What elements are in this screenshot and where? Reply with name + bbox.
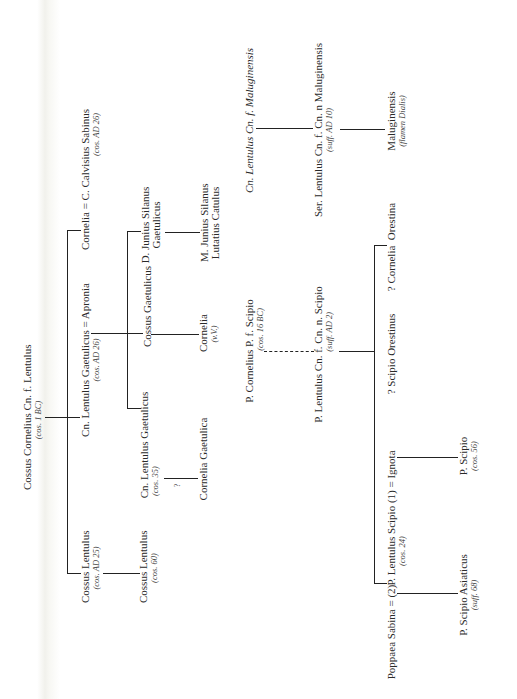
node-ser-maluginensis: Ser. Lentulus Cn. f. Cn. n Maluginensis … [313,37,335,223]
line-root-stem [45,417,80,418]
node-scipio-orestinus: ? Scipio Orestinus [386,306,397,402]
node-office: (cos. 1 BC) [33,350,44,490]
node-p-cornelius-scipio: P. Cornelius P. f. Scipio (cos. 16 BC) [244,296,266,406]
node-office: (cos. 60) [149,533,160,603]
node-poppaea: Poppaea Sabina = (2) [386,584,397,680]
line-scipio-2-stem [339,351,374,352]
node-office: (cos. AD 25) [91,533,102,603]
node-office: (suff. AD 2) [324,282,335,427]
node-m-junius: M. Junius Silanus Lutatius Catulus [199,184,221,262]
line-root-siblings [67,230,68,573]
node-office: (cos. 24) [397,448,408,588]
node-name: P. Lentulus Cn. f. Cn. n. Scipio [313,282,324,427]
line-poppaea-to-asiaticus [397,593,458,594]
node-name: Cossus Lentulus [80,533,91,603]
node-maluginensis-flamen: Maluginensis (flamen Dialis) [386,90,408,152]
node-root: Cossus Cornelius Cn. f. Lentulus (cos. 1… [22,350,44,490]
node-cornelia-orestina: ? Cornelia Orestina [386,202,397,292]
line-cossus-25-to-60 [103,573,140,574]
node-cornelia-calvisius: Cornelia = C. Calvisius Sabinus (cos. AD… [80,107,102,252]
node-name: Cn. Lentulus Gaetulicus [139,390,150,500]
node-office: (cos. AD 26) [91,280,102,440]
node-name: Poppaea Sabina = (2) [386,584,397,680]
node-name: Maluginensis [386,90,397,152]
node-name: Cornelia = C. Calvisius Sabinus [80,107,91,252]
node-office: (cos. 56) [469,434,480,478]
node-office: (cos. AD 26) [91,107,102,252]
node-p-lentulus-scipio-24: P. Lentulus Scipio (1) = Ignota (cos. 24… [386,448,408,588]
line-cossus-gaetulicus-to-cornelia [151,334,199,335]
node-cossus-gaetulicus: Cossus Gaetulicus [142,287,153,347]
node-name: Cornelia Gaetulica [198,416,209,502]
node-name: Cn. Lentulus Cn. f. Maluginensis [244,53,255,193]
line-ser-to-flamen [340,129,385,130]
node-name: ? Cornelia Orestina [386,202,397,292]
node-gaetulicus-apronia: Cn. Lentulus Gaetulicus = Apronia (cos. … [80,280,102,440]
uncertain-mark: ? [173,484,182,488]
line-scipio-dashed [264,351,314,352]
node-gaetulicus-35: Cn. Lentulus Gaetulicus (cos. 35) [139,390,161,500]
node-office: (suff. 68) [469,548,480,642]
node-name: P. Lentulus Scipio (1) = Ignota [386,448,397,588]
line-gaetulicus-children [127,231,128,409]
node-name: Cossus Cornelius Cn. f. Lentulus [22,350,33,490]
node-office: (cos. 16 BC) [255,296,266,406]
node-name: Cossus Gaetulicus [142,287,153,347]
node-name: P. Cornelius P. f. Scipio [244,296,255,406]
node-name: P. Scipio Asiaticus [458,548,469,642]
line-gaetulicus-35-to-cornelia [164,478,198,479]
node-p-scipio-asiaticus: P. Scipio Asiaticus (suff. 68) [458,548,480,642]
line-scipio-2-children [374,245,375,584]
node-name: Ser. Lentulus Cn. f. Cn. n Maluginensis [313,37,324,223]
node-name: P. Scipio [458,434,469,478]
node-name: ? Scipio Orestinus [386,306,397,402]
node-cossus-lentulus-60: Cossus Lentulus (cos. 60) [138,533,160,603]
node-name-line2: Gaetulicus [151,185,162,265]
node-d-junius: D. Junius Silanus Gaetulicus [140,185,162,265]
node-office: (suff. AD 10) [324,37,335,223]
node-p-scipio-56: P. Scipio (cos. 56) [458,434,480,478]
node-name: Cornelia [198,316,209,352]
node-p-lentulus-scipio-2: P. Lentulus Cn. f. Cn. n. Scipio (suff. … [313,282,335,427]
node-office: (cos. 35) [150,390,161,500]
line-d-junius-to-m-junius [165,232,200,233]
node-office: (flamen Dialis) [397,90,408,152]
node-name-line2: Lutatius Catulus [210,184,221,262]
line-cn-to-ser-maluginensis [256,128,313,129]
node-note: (v.V.) [209,316,220,352]
node-cn-maluginensis: Cn. Lentulus Cn. f. Maluginensis [244,53,255,193]
node-cossus-lentulus-25: Cossus Lentulus (cos. AD 25) [80,533,102,603]
node-cornelia-gaetulica: Cornelia Gaetulica [198,416,209,502]
node-name: Cossus Lentulus [138,533,149,603]
node-name: Cn. Lentulus Gaetulicus = Apronia [80,280,91,440]
node-cornelia-vv: Cornelia (v.V.) [198,316,220,352]
